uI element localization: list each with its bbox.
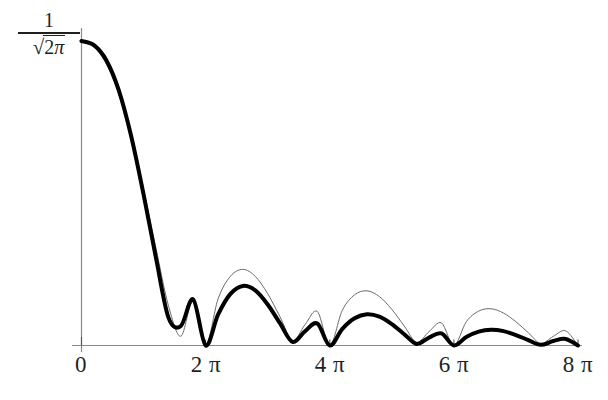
y-axis-label: 1 √2π <box>18 10 80 58</box>
x-tick-label-6pi: 6 π <box>439 352 469 378</box>
series-thick-curve <box>82 41 579 346</box>
fraction-bar <box>18 32 80 34</box>
y-axis-label-numerator: 1 <box>18 10 80 31</box>
data-curves <box>82 41 579 346</box>
x-tick-label-2pi: 2 π <box>191 352 221 378</box>
radicand-coefficient: 2 <box>44 36 54 58</box>
x-tick-label-0: 0 <box>75 352 87 378</box>
pi-symbol: π <box>54 36 64 58</box>
y-axis-label-denominator: √2π <box>18 36 80 58</box>
series-thin-curve <box>82 41 579 346</box>
chart-svg <box>0 0 608 400</box>
radicand: 2π <box>43 35 65 58</box>
x-tick-label-8pi: 8 π <box>563 352 593 378</box>
axis-group <box>72 28 582 352</box>
figure-plot-area: 1 √2π 0 2 π 4 π 6 π 8 π <box>0 0 608 400</box>
x-tick-label-4pi: 4 π <box>315 352 345 378</box>
